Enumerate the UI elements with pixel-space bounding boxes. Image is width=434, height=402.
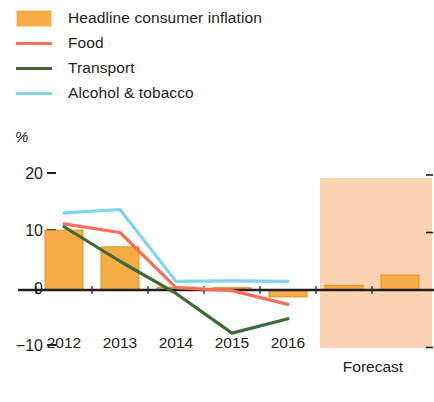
legend-item-alcohol-tobacco: Alcohol & tobacco [16, 82, 194, 104]
bar-2012 [45, 230, 83, 290]
legend-swatch-box-icon [16, 10, 52, 27]
chart-plot-area: % 20 10 0 −10 2012 2013 2014 2015 2016 2… [0, 118, 434, 402]
chart-root: Headline consumer inflation Food Transpo… [0, 0, 434, 402]
bar-2018 [381, 275, 419, 290]
legend-swatch-line-alcohol-icon [16, 92, 52, 95]
legend-item-headline-consumer-inflation: Headline consumer inflation [16, 7, 262, 29]
legend-item-transport: Transport [16, 57, 135, 79]
chart-svg [0, 118, 434, 402]
legend-label-transport: Transport [68, 59, 135, 77]
legend-swatch-line-food-icon [16, 42, 52, 45]
legend-label-food: Food [68, 34, 104, 52]
series-line-alcohol-tobacco [64, 210, 288, 282]
forecast-shaded-region [320, 178, 432, 348]
legend-label-headline-consumer-inflation: Headline consumer inflation [68, 9, 262, 27]
legend-swatch-line-transport-icon [16, 67, 52, 70]
legend-label-alcohol-tobacco: Alcohol & tobacco [68, 84, 194, 102]
legend-item-food: Food [16, 32, 104, 54]
